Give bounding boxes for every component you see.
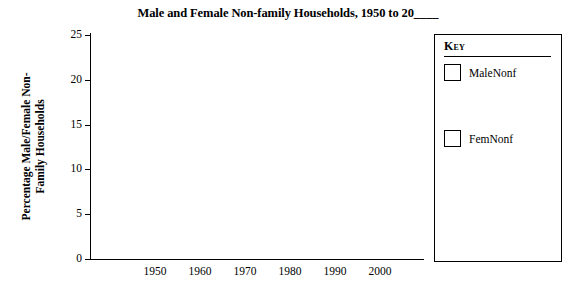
- legend-label-femnonf: FemNonf: [469, 133, 513, 145]
- legend-entry-femnonf: FemNonf: [444, 130, 513, 147]
- x-tick-label-1950: 1950: [144, 265, 167, 277]
- y-tick-label: 15: [71, 119, 83, 131]
- y-tick-label: 10: [71, 164, 83, 176]
- y-tick-label: 5: [76, 208, 82, 220]
- x-tick-label-1980: 1980: [279, 265, 302, 277]
- y-tick-mark: [85, 259, 90, 260]
- x-tick-label-2000: 2000: [369, 265, 392, 277]
- y-tick-label: 0: [76, 253, 82, 265]
- legend-swatch-malenonf: [444, 64, 461, 81]
- x-tick-label-1960: 1960: [189, 265, 212, 277]
- y-axis-title-text: Percentage Male/Female Non- Family House…: [20, 73, 47, 221]
- y-tick-mark: [85, 169, 90, 170]
- y-axis-line: [90, 33, 91, 260]
- x-tick-label-1970: 1970: [234, 265, 257, 277]
- x-tick-label-1990: 1990: [324, 265, 347, 277]
- legend-entry-malenonf: MaleNonf: [444, 64, 516, 81]
- legend-title: Key: [444, 39, 465, 54]
- legend-label-malenonf: MaleNonf: [469, 67, 516, 79]
- y-axis-title: Percentage Male/Female Non- Family House…: [19, 33, 49, 260]
- y-tick-label: 25: [71, 29, 83, 41]
- plot-area: 0 5 10 15 20 25: [90, 33, 424, 260]
- legend-swatch-femnonf: [444, 130, 461, 147]
- legend-title-divider: [444, 56, 551, 57]
- y-tick-mark: [85, 125, 90, 126]
- y-tick-label: 20: [71, 74, 83, 86]
- y-tick-mark: [85, 35, 90, 36]
- chart-figure: Male and Female Non-family Households, 1…: [0, 0, 576, 299]
- x-axis-labels: 1950 1960 1970 1980 1990 2000: [90, 265, 424, 285]
- x-axis-line: [90, 259, 424, 260]
- y-tick-mark: [85, 214, 90, 215]
- y-tick-mark: [85, 80, 90, 81]
- chart-title: Male and Female Non-family Households, 1…: [0, 6, 576, 21]
- legend: Key MaleNonf FemNonf: [434, 34, 562, 262]
